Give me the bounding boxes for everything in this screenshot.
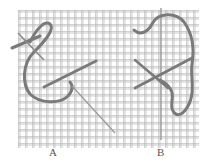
- cross-stitch-diagram: [0, 0, 211, 162]
- panel-label-a: A: [49, 146, 57, 158]
- canvas-mesh: [18, 10, 199, 148]
- panel-label-b: B: [157, 146, 164, 158]
